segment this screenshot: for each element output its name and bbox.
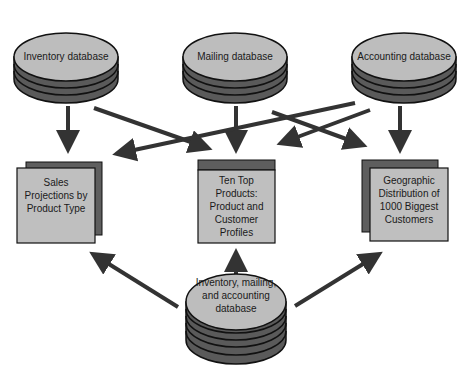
integrated-database-label: Inventory, mailing, and accounting datab… — [193, 276, 279, 315]
mailing-database-label: Mailing database — [183, 50, 287, 63]
geo-report-label: Geographic Distribution of 1000 Biggest … — [373, 174, 445, 226]
inventory-database-label: Inventory database — [14, 50, 118, 63]
sales-report-label: Sales Projections by Product Type — [20, 176, 92, 215]
accounting-database-icon — [352, 33, 456, 103]
mailing-database-icon — [183, 33, 287, 103]
arrow-integrated-to-sales — [96, 256, 178, 307]
tentop-report-label: Ten Top Products: Product and Customer P… — [203, 174, 270, 239]
arrow-integrated-to-geo — [295, 256, 376, 306]
inventory-database-icon — [14, 33, 118, 103]
arrow-inventory-to-tentop — [94, 108, 205, 147]
accounting-database-label: Accounting database — [352, 50, 456, 63]
